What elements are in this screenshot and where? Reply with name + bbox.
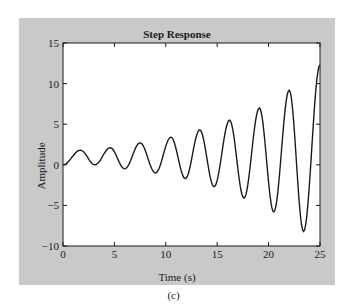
svg-text:5: 5 bbox=[112, 248, 118, 260]
svg-text:20: 20 bbox=[263, 248, 275, 260]
figure-caption: (c) bbox=[0, 289, 347, 301]
svg-text:15: 15 bbox=[48, 37, 60, 49]
svg-text:10: 10 bbox=[160, 248, 172, 260]
svg-text:10: 10 bbox=[48, 78, 60, 90]
svg-text:−10: −10 bbox=[42, 240, 60, 252]
svg-text:5: 5 bbox=[54, 118, 60, 130]
svg-text:25: 25 bbox=[315, 248, 327, 260]
svg-text:15: 15 bbox=[212, 248, 224, 260]
svg-text:0: 0 bbox=[60, 248, 66, 260]
plot-area: 0510152025−10−5051015 bbox=[0, 0, 347, 308]
svg-text:−5: −5 bbox=[47, 199, 59, 211]
svg-text:0: 0 bbox=[54, 159, 60, 171]
